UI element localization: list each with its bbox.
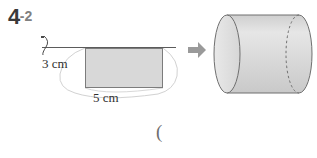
stray-parenthesis-mark: ( (156, 122, 162, 141)
worksheet-figure-page: 4-2 3 cm 5 cm (0, 0, 317, 158)
rotation-axis-hook-icon (36, 34, 52, 56)
height-dimension-label: 3 cm (42, 56, 68, 72)
problem-number-main: 4 (8, 4, 20, 29)
problem-number: 4-2 (8, 6, 32, 28)
rotating-rectangle-figure: 3 cm 5 cm (30, 30, 190, 120)
problem-number-sub: -2 (20, 8, 32, 24)
rectangle-shape (85, 48, 163, 88)
width-dimension-label: 5 cm (93, 90, 119, 106)
right-arrow-icon (185, 39, 209, 61)
cylinder-shape (210, 8, 313, 102)
